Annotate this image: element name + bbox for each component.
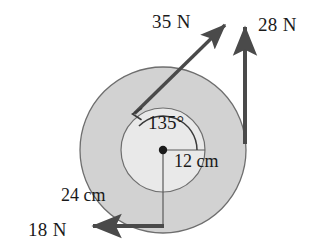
label-angle-135: 135°: [148, 112, 184, 133]
label-force-18n: 18 N: [28, 219, 67, 240]
label-force-35n: 35 N: [152, 11, 191, 32]
label-radius-outer: 24 cm: [61, 185, 106, 205]
diagram-canvas: 35 N 28 N 18 N 135° 12 cm 24 cm: [0, 0, 313, 244]
label-radius-inner: 12 cm: [174, 151, 219, 171]
physics-diagram-figure: 35 N 28 N 18 N 135° 12 cm 24 cm: [0, 0, 313, 244]
center-pivot-dot: [159, 146, 167, 154]
label-force-28n: 28 N: [258, 14, 297, 35]
